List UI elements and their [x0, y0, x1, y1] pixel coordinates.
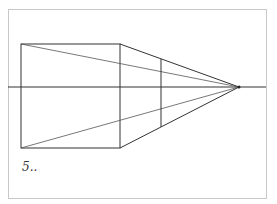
- orthogonal-top-left: [21, 44, 239, 87]
- front-square: [21, 44, 120, 148]
- orthogonal-bottom-left: [21, 87, 239, 148]
- figure-label: 5..: [22, 160, 37, 174]
- vanishing-point: [238, 86, 241, 89]
- frame-border: [9, 10, 267, 199]
- perspective-diagram: [0, 0, 277, 204]
- orthogonal-top-right: [120, 44, 239, 87]
- orthogonal-bottom-right: [120, 87, 239, 148]
